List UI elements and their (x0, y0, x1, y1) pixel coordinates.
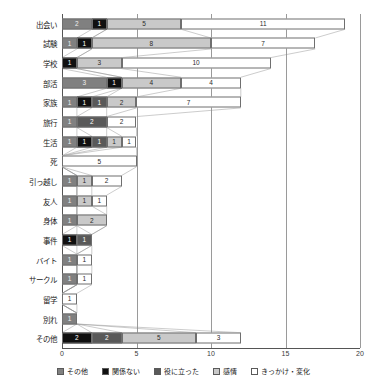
segment-value: 2 (120, 119, 124, 126)
bar-segment[interactable]: 4 (122, 77, 182, 88)
segment-value: 1 (112, 80, 116, 87)
stacked-bar[interactable]: 3144 (62, 77, 241, 88)
x-axis-line (62, 348, 360, 349)
bar-segment[interactable]: 1 (62, 254, 77, 265)
stacked-bar[interactable]: 1310 (62, 58, 271, 69)
bar-segment[interactable]: 2 (77, 117, 107, 128)
bar-segment[interactable]: 1 (62, 234, 77, 245)
bar-segment[interactable]: 7 (136, 97, 240, 108)
legend-item[interactable]: 感情 (213, 366, 237, 376)
stacked-bar[interactable]: 11 (62, 274, 92, 285)
segment-value: 4 (209, 80, 213, 87)
bar-segment[interactable]: 10 (122, 58, 271, 69)
stacked-bar[interactable]: 5 (62, 156, 137, 167)
bar-segment[interactable]: 1 (62, 195, 77, 206)
bar-segment[interactable]: 1 (62, 313, 77, 324)
bar-segment[interactable]: 4 (181, 77, 241, 88)
legend-item[interactable]: その他 (57, 366, 88, 376)
bar-segment[interactable]: 2 (107, 117, 137, 128)
segment-value: 1 (68, 217, 72, 224)
stacked-bar[interactable]: 1 (62, 313, 77, 324)
segment-value: 5 (142, 21, 146, 28)
bar-segment[interactable]: 1 (62, 215, 77, 226)
stacked-bar[interactable]: 21511 (62, 18, 345, 29)
bar-segment[interactable]: 5 (122, 333, 197, 344)
bar-segment[interactable]: 1 (77, 254, 92, 265)
stacked-bar[interactable]: 2253 (62, 333, 241, 344)
bar-segment[interactable]: 3 (196, 333, 241, 344)
bar-segment[interactable]: 2 (92, 175, 122, 186)
bar-segment[interactable]: 2 (62, 333, 92, 344)
segment-value: 3 (217, 335, 221, 342)
stacked-bar[interactable]: 11 (62, 234, 92, 245)
stacked-bar[interactable]: 111 (62, 195, 107, 206)
legend-item[interactable]: 関係ない (102, 366, 140, 376)
bar-segment[interactable]: 1 (77, 175, 92, 186)
segment-value: 1 (83, 99, 87, 106)
x-tick-label: 5 (135, 350, 139, 357)
bar-segment[interactable]: 1 (62, 58, 77, 69)
segment-value: 5 (157, 335, 161, 342)
bar-segment[interactable]: 3 (62, 77, 107, 88)
bar-segment[interactable]: 1 (77, 274, 92, 285)
bar-segment[interactable]: 1 (92, 136, 107, 147)
legend-item[interactable]: 役に立った (154, 366, 199, 376)
segment-value: 1 (83, 40, 87, 47)
stacked-bar[interactable]: 122 (62, 117, 137, 128)
stacked-bar[interactable]: 11127 (62, 97, 241, 108)
category-label: 死 (50, 156, 57, 167)
bar-segment[interactable]: 5 (62, 156, 137, 167)
bar-segment[interactable]: 1 (62, 97, 77, 108)
bar-segment[interactable]: 1 (107, 77, 122, 88)
bar-segment[interactable]: 11 (181, 18, 345, 29)
bar-segment[interactable]: 1 (92, 97, 107, 108)
bar-segment[interactable]: 2 (107, 97, 137, 108)
segment-value: 1 (83, 276, 87, 283)
bar-segment[interactable]: 3 (77, 58, 122, 69)
x-tick-label: 0 (60, 350, 64, 357)
segment-value: 1 (68, 296, 72, 303)
bar-segment[interactable]: 1 (77, 97, 92, 108)
bar-row: 旅行122 (62, 112, 360, 132)
bar-segment[interactable]: 7 (211, 38, 315, 49)
bar-segment[interactable]: 1 (62, 293, 77, 304)
segment-value: 2 (75, 335, 79, 342)
bar-row: 試験1187 (62, 34, 360, 54)
segment-value: 10 (192, 60, 199, 67)
bar-segment[interactable]: 1 (62, 274, 77, 285)
stacked-bar[interactable]: 11111 (62, 136, 137, 147)
bar-segment[interactable]: 2 (77, 215, 107, 226)
bar-segment[interactable]: 1 (77, 234, 92, 245)
bar-segment[interactable]: 1 (62, 38, 77, 49)
bar-segment[interactable]: 1 (77, 195, 92, 206)
bar-segment[interactable]: 1 (77, 136, 92, 147)
bar-segment[interactable]: 1 (62, 117, 77, 128)
segment-value: 1 (68, 256, 72, 263)
segment-value: 7 (187, 99, 191, 106)
category-label: バイト (36, 254, 57, 265)
bar-row: バイト11 (62, 250, 360, 270)
bar-segment[interactable]: 8 (92, 38, 211, 49)
legend-item[interactable]: きっかけ・変化 (251, 366, 310, 376)
bar-segment[interactable]: 1 (62, 175, 77, 186)
stacked-bar[interactable]: 1187 (62, 38, 315, 49)
bar-segment[interactable]: 1 (77, 38, 92, 49)
stacked-bar[interactable]: 12 (62, 215, 107, 226)
segment-value: 11 (260, 21, 267, 28)
bar-segment[interactable]: 1 (92, 18, 107, 29)
bar-segment[interactable]: 2 (62, 18, 92, 29)
bar-segment[interactable]: 1 (107, 136, 122, 147)
bar-segment[interactable]: 1 (62, 136, 77, 147)
bar-segment[interactable]: 1 (122, 136, 137, 147)
bar-row: 生活11111 (62, 132, 360, 152)
bar-segment[interactable]: 1 (92, 195, 107, 206)
gridline (360, 14, 361, 348)
legend-swatch (57, 368, 64, 375)
stacked-bar[interactable]: 112 (62, 175, 122, 186)
stacked-bar[interactable]: 1 (62, 293, 77, 304)
segment-value: 1 (68, 60, 72, 67)
stacked-bar[interactable]: 11 (62, 254, 92, 265)
bar-segment[interactable]: 2 (92, 333, 122, 344)
bar-segment[interactable]: 5 (107, 18, 182, 29)
segment-value: 2 (105, 335, 109, 342)
